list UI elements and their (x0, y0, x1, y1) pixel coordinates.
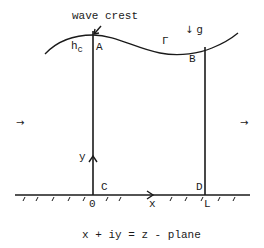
hc-label: hc (71, 40, 83, 55)
point-A-label: A (96, 41, 103, 53)
wave-crest-label: wave crest (72, 10, 138, 22)
point-L-label: L (204, 198, 211, 210)
wave-domain-diagram: wave crest hc A Γ ↓ g B y C D 0 x L → → … (0, 0, 264, 248)
y-axis-label: y (79, 151, 86, 163)
gamma-label: Γ (162, 35, 169, 47)
point-B-label: B (189, 53, 196, 65)
x-axis-label: x (149, 198, 156, 210)
plane-caption: x + iy = z - plane (82, 229, 201, 241)
wave-crest-arrow-icon (94, 26, 101, 34)
gravity-label: ↓ g (185, 24, 203, 35)
origin-label: 0 (89, 198, 96, 210)
point-D-label: D (196, 181, 203, 193)
point-C-label: C (101, 181, 108, 193)
right-flow-arrow-icon: → (240, 117, 248, 128)
left-flow-arrow-icon: → (16, 117, 24, 128)
